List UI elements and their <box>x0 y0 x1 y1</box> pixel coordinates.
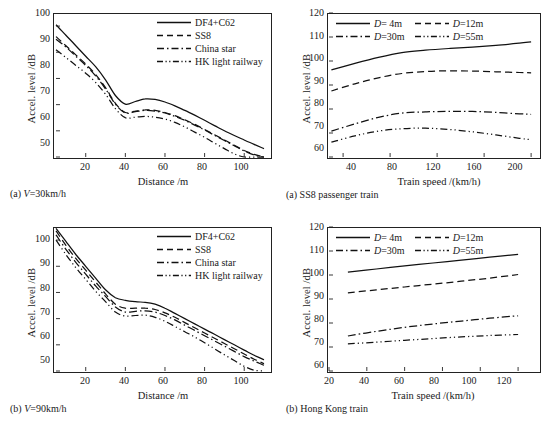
y-tick-label: 80 <box>296 313 324 324</box>
x-tick-label: 20 <box>317 375 341 386</box>
caption-prefix: (b) <box>286 403 298 414</box>
legend-item: SS8 <box>157 243 263 256</box>
legend-label: China star <box>195 257 236 268</box>
legend-label: D= 4m <box>374 18 402 29</box>
x-tick-label: 100 <box>457 375 481 386</box>
legend-a-right: D= 4m D=12m D=30m D=55m <box>336 17 483 42</box>
line-style-solid-icon <box>157 19 191 26</box>
y-tick-label: 70 <box>296 336 324 347</box>
legend-symbol: D <box>453 245 460 256</box>
y-tick-label: 60 <box>296 359 324 370</box>
x-tick-label: 120 <box>492 375 516 386</box>
x-tick-label: 60 <box>151 375 175 386</box>
legend-label: HK light railway <box>195 56 263 67</box>
y-tick-label: 80 <box>22 282 50 293</box>
legend-item: D=12m <box>415 17 484 29</box>
panel-b-right: Accel. level /dB D= 4m D=12m D=30m <box>280 212 554 431</box>
x-axis-label: Train speed /(km/h) <box>374 176 504 187</box>
y-tick-label: 80 <box>296 97 324 108</box>
y-tick-label: 100 <box>22 233 50 244</box>
x-tick-label: 100 <box>229 161 253 172</box>
legend-b-left: DF4+C62 SS8 China star HK light railway <box>157 230 263 282</box>
subfigure-caption: (b) Hong Kong train <box>286 403 368 414</box>
legend-symbol: D <box>453 31 460 42</box>
legend-item: China star <box>157 42 263 55</box>
line-style-dashdotdot-icon <box>415 33 449 40</box>
legend-label: D=30m <box>374 245 405 256</box>
legend-item: D=30m <box>336 244 405 256</box>
legend-label: DF4+C62 <box>195 231 235 242</box>
legend-a-left: DF4+C62 SS8 China star HK light railway <box>157 16 263 68</box>
y-tick-label: 60 <box>22 111 50 122</box>
legend-item: HK light railway <box>157 55 263 68</box>
subfigure-caption: (a) V=30km/h <box>10 188 66 199</box>
legend-item: D=12m <box>415 231 484 243</box>
series-line <box>348 316 518 336</box>
x-tick-label: 40 <box>112 375 136 386</box>
legend-b-right: D= 4m D=12m D=30m D=55m <box>336 231 483 256</box>
x-tick-label: 40 <box>339 161 363 172</box>
y-tick-label: 90 <box>296 290 324 301</box>
legend-label: D=55m <box>453 245 484 256</box>
legend-label: SS8 <box>195 30 211 41</box>
legend-item: SS8 <box>157 29 263 42</box>
legend-value: =55m <box>460 31 483 42</box>
y-tick-label: 120 <box>296 221 324 232</box>
legend-label: HK light railway <box>195 270 263 281</box>
legend-value: =55m <box>460 245 483 256</box>
y-tick-label: 110 <box>296 30 324 41</box>
panel-b-left: Accel. level /dB DF4+C62 SS8 China star <box>0 212 280 431</box>
legend-item: D= 4m <box>336 17 405 29</box>
line-style-solid-icon <box>336 20 370 27</box>
series-line <box>331 128 531 142</box>
y-tick-label: 90 <box>296 75 324 86</box>
legend-label: D=12m <box>453 18 484 29</box>
x-axis-label: Distance /m <box>113 176 213 187</box>
legend-item: D=55m <box>415 244 484 256</box>
caption-prefix: (b) <box>10 403 22 414</box>
y-tick-label: 90 <box>22 33 50 44</box>
x-axis-label: Distance /m <box>113 390 213 401</box>
x-tick-label: 80 <box>190 375 214 386</box>
legend-symbol: D <box>453 232 460 243</box>
line-style-dashdotdot-icon <box>157 272 191 279</box>
caption-prefix: (a) <box>10 188 21 199</box>
y-tick-label: 50 <box>22 137 50 148</box>
x-tick-label: 20 <box>73 161 97 172</box>
series-line <box>348 275 518 293</box>
legend-label: D=55m <box>453 31 484 42</box>
line-style-dashdot-icon <box>336 33 370 40</box>
legend-value: =30m <box>381 245 404 256</box>
series-line <box>331 111 531 131</box>
line-style-solid-icon <box>336 234 370 241</box>
legend-value: =12m <box>460 232 483 243</box>
y-tick-label: 100 <box>296 52 324 63</box>
caption-rest: =30km/h <box>30 188 66 199</box>
line-style-dashdot-icon <box>157 259 191 266</box>
line-style-solid-icon <box>157 233 191 240</box>
figure-root: Accel. level /dB DF4+C62 SS8 China star <box>0 0 554 431</box>
legend-label: China star <box>195 43 236 54</box>
x-tick-label: 20 <box>73 375 97 386</box>
legend-symbol: D <box>453 18 460 29</box>
x-tick-label: 60 <box>151 161 175 172</box>
y-tick-label: 70 <box>22 85 50 96</box>
x-tick-label: 80 <box>190 161 214 172</box>
x-tick-label: 100 <box>229 375 253 386</box>
y-tick-label: 60 <box>22 330 50 341</box>
line-style-dashdotdot-icon <box>415 247 449 254</box>
legend-value: =30m <box>381 31 404 42</box>
legend-label: D= 4m <box>374 232 402 243</box>
x-tick-label: 80 <box>422 375 446 386</box>
line-style-dashed-icon <box>157 32 191 39</box>
y-tick-label: 80 <box>22 59 50 70</box>
caption-text: Hong Kong train <box>300 403 368 414</box>
legend-label: D=12m <box>453 232 484 243</box>
series-line <box>331 71 531 91</box>
x-tick-label: 120 <box>421 161 445 172</box>
x-tick-label: 60 <box>387 375 411 386</box>
x-tick-label: 160 <box>462 161 486 172</box>
series-line <box>348 335 518 344</box>
legend-item: D=30m <box>336 30 405 42</box>
legend-value: =12m <box>460 18 483 29</box>
